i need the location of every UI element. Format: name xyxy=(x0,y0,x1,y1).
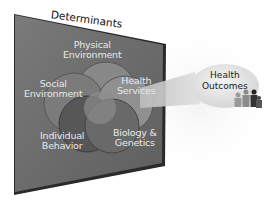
label-physical-environment: Physical Environment xyxy=(63,40,121,60)
label-health-outcomes: Health Outcomes xyxy=(202,70,248,92)
label-individual-behavior: Individual Behavior xyxy=(40,131,84,151)
diagram-graphics xyxy=(0,0,275,204)
label-health-services: Health Services xyxy=(117,76,155,96)
determinants-diagram: Determinants Physical Environment Social… xyxy=(0,0,275,204)
label-social-environment: Social Environment xyxy=(24,79,82,99)
label-biology-genetics: Biology & Genetics xyxy=(113,128,157,148)
